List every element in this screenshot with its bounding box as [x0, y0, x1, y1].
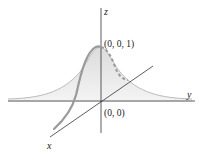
- surface-diagram: z y x (0, 0, 1) (0, 0): [0, 0, 200, 156]
- y-axis-label: y: [186, 89, 192, 100]
- x-axis-label: x: [46, 140, 52, 151]
- z-axis-label: z: [103, 6, 108, 17]
- surface-shape: [8, 47, 192, 102]
- origin-point-label: (0, 0): [104, 108, 125, 119]
- peak-point-label: (0, 0, 1): [104, 39, 134, 50]
